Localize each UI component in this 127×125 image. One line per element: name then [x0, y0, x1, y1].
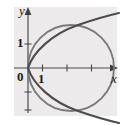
- x-axis-label: x: [111, 72, 117, 85]
- y-axis-label: y: [19, 4, 25, 17]
- x-tick-label-1: 1: [38, 72, 45, 85]
- plot-svg: [0, 0, 127, 125]
- math-figure: y x 0 1 1: [0, 0, 127, 125]
- origin-label: 0: [17, 70, 24, 83]
- y-tick-label-1: 1: [17, 36, 24, 49]
